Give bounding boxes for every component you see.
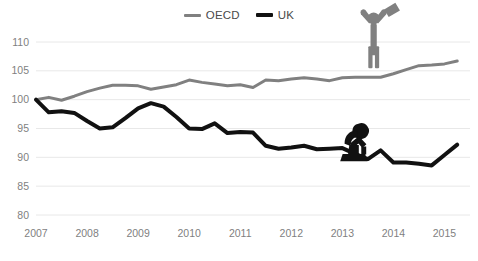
x-axis-tick-label: 2009 [126,227,150,239]
x-axis-tick-label: 2013 [331,227,355,239]
celebrating-figure-icon [360,3,400,69]
y-axis-tick-label: 95 [17,122,29,134]
x-axis-tick-labels: 200720082009201020112012201320142015 [24,227,456,239]
line-chart: 80859095100105110 2007200820092010201120… [0,0,478,261]
x-axis-tick-label: 2010 [177,227,201,239]
chart-container: 80859095100105110 2007200820092010201120… [0,0,478,261]
y-axis-tick-label: 110 [12,36,29,48]
y-axis-tick-label: 80 [17,209,29,221]
x-axis-tick-label: 2015 [433,227,457,239]
y-axis-tick-label: 100 [11,93,29,105]
y-axis-tick-label: 105 [11,64,29,76]
series-line-oecd [36,61,457,100]
data-series-lines [36,61,457,165]
y-axis-tick-label: 90 [17,151,29,163]
series-line-uk [36,100,457,166]
y-axis-tick-labels: 80859095100105110 [11,36,29,221]
x-axis-tick-label: 2014 [382,227,406,239]
y-axis-tick-label: 85 [17,180,29,192]
x-axis-tick-label: 2007 [24,227,48,239]
x-axis-tick-label: 2012 [280,227,304,239]
x-axis-tick-label: 2008 [75,227,99,239]
x-axis-tick-label: 2011 [229,227,252,239]
